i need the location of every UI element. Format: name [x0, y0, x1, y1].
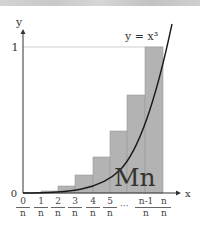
- x-axis-arrow-icon: [176, 191, 181, 196]
- mn-label: Mn: [114, 163, 156, 192]
- x-tick-3: 3n: [68, 197, 82, 218]
- x-tick-1: 1n: [34, 197, 48, 218]
- y-axis-label: y: [15, 16, 23, 29]
- curve-label: y = x³: [124, 30, 158, 43]
- x-tick-4: 4n: [86, 197, 100, 218]
- x-tick-n: nn: [157, 197, 171, 218]
- x-tick-0: 0n: [16, 197, 30, 218]
- x-tick-5: 5n: [103, 197, 117, 218]
- x-tick-ellipsis: ···: [120, 201, 129, 211]
- x-tick-n-minus-1: n-1n: [135, 197, 157, 218]
- y-axis-arrow-icon: [21, 29, 26, 34]
- x-tick-2: 2n: [51, 197, 65, 218]
- y-tick-one: 1: [12, 41, 19, 54]
- riemann-sum-diagram: y x 1 0 y = x³ Mn: [0, 0, 200, 229]
- bar-4: [93, 157, 110, 193]
- x-axis-label: x: [185, 188, 191, 199]
